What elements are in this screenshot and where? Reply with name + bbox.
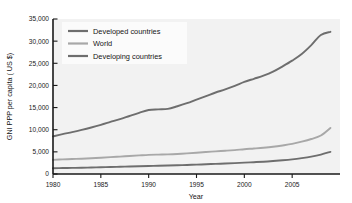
y-tick-label: 5,000 [32,148,49,155]
legend-label-developed-countries: Developed countries [93,27,161,36]
legend-label-developing-countries: Developing countries [93,52,162,61]
x-tick-label: 2000 [237,181,252,188]
x-axis-title: Year [189,192,204,201]
y-axis-title: GNI PPP per capita ( US $) [5,53,14,140]
y-tick-label: 30,000 [29,38,50,45]
y-tick-label: 10,000 [29,126,50,133]
chart-canvas: 05,00010,00015,00020,00025,00030,00035,0… [0,0,352,203]
x-tick-label: 1995 [189,181,204,188]
y-tick-label: 35,000 [29,15,50,22]
x-axis-ticks: 198019851990199520002005 [46,174,300,188]
x-tick-label: 1980 [46,181,61,188]
y-tick-label: 0 [45,170,49,177]
x-tick-label: 1990 [141,181,156,188]
y-tick-label: 25,000 [29,60,50,67]
y-tick-label: 20,000 [29,82,50,89]
chart-figure: 05,00010,00015,00020,00025,00030,00035,0… [0,0,352,203]
y-tick-label: 15,000 [29,104,50,111]
legend-label-world: World [93,39,112,48]
x-tick-label: 2005 [285,181,300,188]
chart-legend: Developed countriesWorldDeveloping count… [62,22,187,64]
x-tick-label: 1985 [93,181,108,188]
